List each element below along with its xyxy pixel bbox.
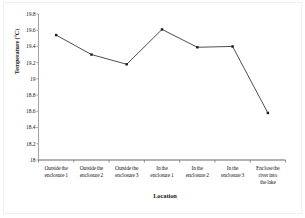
y-tick-label: 19.6 <box>12 27 36 33</box>
data-point-marker <box>161 28 163 30</box>
series-line <box>56 29 268 113</box>
x-tick-label: In theenclosure 1 <box>144 165 179 179</box>
data-point-marker <box>267 112 269 114</box>
data-point-marker <box>90 53 92 55</box>
y-tick-label: 18.4 <box>12 124 36 130</box>
chart-figure: Temperature (°C) Location 19.819.619.419… <box>0 0 305 218</box>
x-tick-label: Outside theenclosure 3 <box>109 165 144 179</box>
y-tick-label: 19.2 <box>12 60 36 66</box>
data-point-marker <box>126 63 128 65</box>
y-tick-label: 19.8 <box>12 11 36 17</box>
data-series <box>56 29 268 113</box>
y-tick-label: 19.4 <box>12 43 36 49</box>
data-point-markers <box>55 28 269 114</box>
x-axis-title: Location <box>40 192 290 199</box>
y-tick-label: 19 <box>12 76 36 82</box>
x-tick-label: Enclose theriver intothe lake <box>250 165 285 187</box>
y-tick-label: 18.2 <box>12 141 36 147</box>
x-tick-label: In theenclosure 2 <box>180 165 215 179</box>
data-point-marker <box>196 46 198 48</box>
data-point-marker <box>55 34 57 36</box>
x-tick-label: Outside theenclosure 2 <box>74 165 109 179</box>
data-point-marker <box>231 45 233 47</box>
x-tick-label: In theenclosure 3 <box>215 165 250 179</box>
axes-group <box>39 14 286 160</box>
y-tick-label: 18.8 <box>12 92 36 98</box>
y-tick-label: 18.6 <box>12 108 36 114</box>
y-tick-label: 18 <box>12 157 36 163</box>
x-tick-label: Outside theenclosure 1 <box>39 165 74 179</box>
